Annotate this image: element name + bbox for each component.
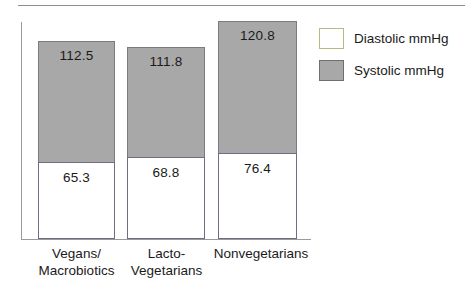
- x-axis-label-line2: Macrobiotics: [26, 262, 127, 279]
- bar-segment-systolic[interactable]: 111.8: [127, 47, 205, 158]
- legend-item-diastolic[interactable]: Diastolic mmHg: [319, 22, 449, 54]
- y-axis-line: [21, 22, 22, 240]
- bar-group-vegans-macrobiotics[interactable]: 112.5 65.3: [38, 41, 115, 239]
- stacked-bar-chart: 112.5 65.3 111.8 68.8 120.8 76.4 Vegans/…: [0, 0, 471, 290]
- bar-segment-diastolic[interactable]: 65.3: [38, 162, 115, 239]
- chart-legend: Diastolic mmHg Systolic mmHg: [319, 22, 449, 86]
- x-axis-label-line2: Vegetarians: [122, 262, 211, 279]
- bar-value-diastolic: 76.4: [219, 161, 296, 176]
- bar-value-diastolic: 65.3: [39, 170, 114, 185]
- bar-value-systolic: 112.5: [39, 48, 114, 63]
- legend-swatch-systolic-icon: [319, 60, 344, 81]
- bar-group-nonvegetarians[interactable]: 120.8 76.4: [218, 21, 297, 239]
- x-axis-label-lacto-vegetarians: Lacto- Vegetarians: [122, 245, 211, 279]
- bar-segment-systolic[interactable]: 112.5: [38, 41, 115, 163]
- legend-label-systolic: Systolic mmHg: [354, 63, 444, 78]
- legend-label-diastolic: Diastolic mmHg: [354, 31, 449, 46]
- bar-segment-systolic[interactable]: 120.8: [218, 21, 297, 154]
- bar-group-lacto-vegetarians[interactable]: 111.8 68.8: [127, 47, 205, 239]
- bar-value-systolic: 120.8: [219, 28, 296, 43]
- x-axis-label-line1: Vegans/: [26, 245, 127, 262]
- x-axis-label-line1: Nonvegetarians: [208, 245, 314, 262]
- x-axis-label-line1: Lacto-: [122, 245, 211, 262]
- bar-segment-diastolic[interactable]: 68.8: [127, 157, 205, 239]
- legend-swatch-diastolic-icon: [319, 28, 344, 49]
- bar-value-systolic: 111.8: [128, 54, 204, 69]
- bar-value-diastolic: 68.8: [128, 165, 204, 180]
- legend-item-systolic[interactable]: Systolic mmHg: [319, 54, 449, 86]
- x-axis-label-nonvegetarians: Nonvegetarians: [208, 245, 314, 262]
- x-axis-line: [21, 239, 311, 240]
- x-axis-label-vegans-macrobiotics: Vegans/ Macrobiotics: [26, 245, 127, 279]
- bar-segment-diastolic[interactable]: 76.4: [218, 153, 297, 239]
